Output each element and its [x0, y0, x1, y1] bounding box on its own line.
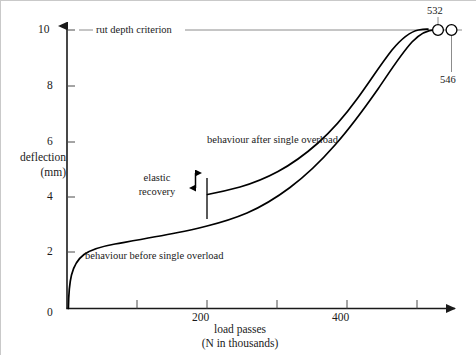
end-point-label-532: 532 — [427, 5, 443, 17]
y-tick-label-10: 10 — [38, 23, 50, 36]
y-tick-label-2: 2 — [47, 245, 53, 258]
chart-container: 10 8 6 4 2 0 200 400 deflection (mm) loa… — [0, 0, 476, 355]
end-point-marker-532 — [433, 25, 444, 36]
y-axis-ticks — [67, 30, 75, 252]
x-tick-label-200: 200 — [192, 311, 209, 324]
x-axis-units: (N in thousands) — [180, 337, 300, 350]
elastic-recovery-label-line2: recovery — [128, 186, 186, 198]
end-point-label-546: 546 — [440, 74, 456, 86]
y-axis-units: (mm) — [8, 166, 66, 179]
rut-depth-criterion-label: rut depth criterion — [96, 24, 172, 36]
y-tick-label-0: 0 — [47, 306, 53, 319]
curve-after-overload — [208, 29, 429, 194]
y-axis-title: deflection — [8, 151, 66, 164]
x-tick-label-400: 400 — [332, 311, 349, 324]
x-axis-ticks — [137, 300, 417, 309]
after-overload-label: behaviour after single overload — [207, 134, 338, 146]
end-point-marker-546 — [446, 25, 457, 36]
y-tick-label-4: 4 — [47, 190, 53, 203]
x-axis-title: load passes — [180, 323, 300, 336]
elastic-recovery-label-line1: elastic — [128, 172, 186, 184]
curve-before-overload — [68, 30, 435, 309]
y-tick-label-6: 6 — [47, 135, 53, 148]
y-tick-label-8: 8 — [47, 79, 53, 92]
before-overload-label: behaviour before single overload — [85, 250, 224, 262]
chart-graphics — [0, 0, 476, 355]
